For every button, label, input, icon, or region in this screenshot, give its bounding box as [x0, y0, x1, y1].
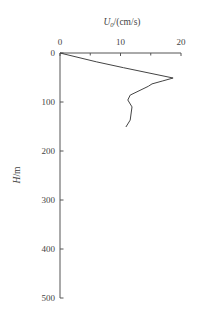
- profile-line: [60, 53, 173, 127]
- y-axis-title: H/m: [12, 166, 22, 185]
- y-tick-label: 100: [42, 97, 56, 107]
- axes: [60, 53, 181, 298]
- y-tick-label: 300: [42, 195, 56, 205]
- svg-text:U0/(cm/s): U0/(cm/s): [103, 17, 140, 28]
- y-tick-label: 200: [42, 146, 56, 156]
- ticks: 010200100200300400500: [42, 37, 187, 303]
- x-axis-title: U0/(cm/s): [103, 17, 140, 28]
- x-tick-label: 20: [177, 37, 187, 47]
- y-tick-label: 0: [51, 48, 56, 58]
- chart: U0/(cm/s) H/m 010200100200300400500: [0, 0, 200, 315]
- data-series: [60, 53, 173, 127]
- x-tick-label: 10: [116, 37, 126, 47]
- y-tick-label: 400: [42, 244, 56, 254]
- y-tick-label: 500: [42, 293, 56, 303]
- x-tick-label: 0: [58, 37, 63, 47]
- svg-text:H/m: H/m: [12, 166, 22, 185]
